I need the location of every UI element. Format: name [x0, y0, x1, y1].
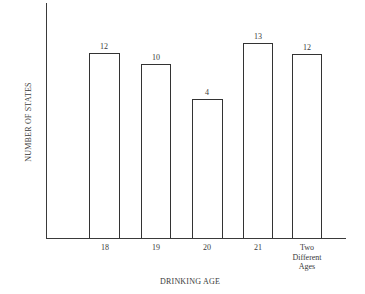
- bar-value-two-different-ages: 12: [292, 43, 322, 52]
- x-tick-line-1: Two: [282, 243, 332, 253]
- bar-two-different-ages: [292, 54, 322, 238]
- y-axis-line: [46, 3, 47, 239]
- bar-20: [192, 99, 223, 238]
- y-axis-label: NUMBER OF STATES: [24, 82, 33, 161]
- bar-19: [141, 64, 171, 238]
- x-tick-18: 18: [80, 243, 130, 253]
- x-axis-label: DRINKING AGE: [140, 277, 240, 286]
- x-tick-two-different-ages: Two Different Ages: [282, 243, 332, 272]
- x-tick-21: 21: [233, 243, 283, 253]
- x-tick-19: 19: [131, 243, 181, 253]
- bar-value-18: 12: [89, 42, 119, 51]
- bar-value-19: 10: [141, 53, 171, 62]
- bar-21: [243, 43, 273, 238]
- x-tick-line-2: Different: [282, 253, 332, 263]
- bar-18: [89, 53, 120, 238]
- bar-value-21: 13: [243, 32, 273, 41]
- x-tick-line-3: Ages: [282, 262, 332, 272]
- x-tick-20: 20: [182, 243, 232, 253]
- bar-value-20: 4: [192, 88, 222, 97]
- x-axis-line: [46, 238, 346, 239]
